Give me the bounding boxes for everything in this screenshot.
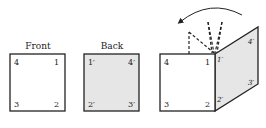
folded-corner-top-left: 4 — [164, 58, 169, 67]
rotation-arrow-icon — [180, 8, 242, 22]
flap-corner-hinge-bottom: 2′ — [216, 96, 223, 104]
back-corner-top-left: 1′ — [88, 58, 95, 67]
flap-corner-far-top: 4′ — [247, 38, 254, 46]
front-panel: Front 4 1 3 2 — [10, 41, 65, 111]
back-corner-top-right: 4′ — [128, 58, 135, 67]
back-panel: Back 1′ 4′ 2′ 3′ — [84, 41, 139, 111]
front-title: Front — [25, 41, 51, 51]
folded-view: 4 1 3 2 1′ 4′ 3′ 2′ — [160, 8, 258, 111]
front-corner-top-left: 4 — [14, 58, 19, 67]
front-corner-bottom-left: 3 — [14, 100, 19, 109]
flap-corner-hinge-top: 1′ — [217, 56, 223, 64]
folded-corner-bottom-right: 2 — [205, 100, 210, 109]
back-corner-bottom-right: 3′ — [128, 100, 135, 109]
front-corner-bottom-right: 2 — [54, 100, 59, 109]
front-corner-top-right: 1 — [54, 58, 59, 67]
diagram-canvas: Front 4 1 3 2 Back 1′ 4′ 2′ 3′ 4 1 3 2 1… — [0, 0, 266, 128]
rotation-dashes — [189, 22, 222, 54]
folded-corner-bottom-left: 3 — [164, 100, 169, 109]
folded-corner-top-right: 1 — [205, 58, 210, 67]
back-title: Back — [101, 41, 124, 51]
back-corner-bottom-left: 2′ — [88, 100, 95, 109]
flap-corner-far-bottom: 3′ — [248, 79, 254, 87]
